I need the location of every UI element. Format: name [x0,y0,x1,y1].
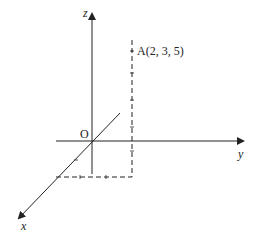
x-axis-label: x [20,219,27,233]
projection-lines [56,40,132,177]
x-axis [19,113,120,218]
z-axis-label: z [82,6,88,20]
origin-label: O [80,127,89,141]
y-axis-label: y [237,147,244,161]
point-a-label: A(2, 3, 5) [137,44,184,58]
point-a-marker [131,50,133,52]
coordinate-diagram: z y x O A(2, 3, 5) [0,0,253,236]
